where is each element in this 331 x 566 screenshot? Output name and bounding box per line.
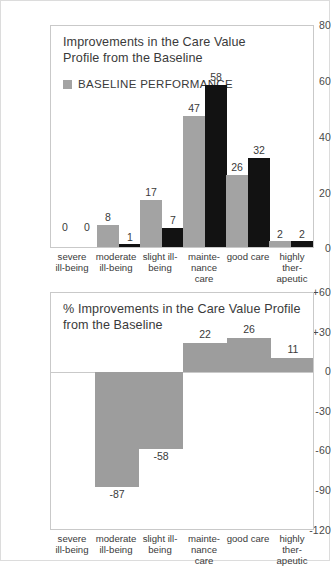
x-label-bottom-highly: highly ther- apeutic: [270, 533, 314, 566]
bar-value-top-g4-gray: 47: [183, 103, 205, 114]
col-bottom-goodcare: [227, 338, 271, 372]
bar-value-top-g4-black: 58: [205, 72, 227, 83]
plot-area-bottom: % Improvements in the Care Value Profile…: [50, 292, 314, 530]
col-value-bottom-moderate: -87: [95, 489, 139, 500]
bar-value-top-g1-black: 0: [76, 222, 98, 233]
x-axis-labels-top: severe ill-being moderate ill-being slig…: [50, 251, 314, 284]
bar-value-top-g3-gray: 17: [140, 187, 162, 198]
x-label-bottom-goodcare: good care: [226, 533, 270, 566]
x-label-top-severe: severe ill-being: [50, 251, 94, 284]
bar-top-g5-gray: [226, 175, 248, 248]
x-label-bottom-mainte: mainte- nance care: [182, 533, 226, 566]
bar-top-g4-gray: [183, 116, 205, 247]
bar-top-g6-black: [291, 241, 313, 247]
x-label-bottom-slight: slight ill- being: [138, 533, 182, 566]
col-bottom-slight: [139, 372, 183, 449]
col-value-bottom-highly: 11: [271, 344, 314, 355]
bar-top-g3-black: [162, 228, 184, 248]
x-label-top-slight: slight ill- being: [138, 251, 182, 284]
x-label-top-goodcare: good care: [226, 251, 270, 284]
bar-top-g5-black: [248, 158, 270, 247]
col-bottom-maintenance: [183, 343, 227, 372]
bar-top-g4-black: [205, 85, 227, 247]
bar-value-top-g1-gray: 0: [54, 222, 76, 233]
x-label-top-moderate: moderate ill-being: [94, 251, 138, 284]
x-label-top-highly: highly ther- apeutic: [270, 251, 314, 284]
bar-value-top-g3-black: 7: [162, 215, 184, 226]
chart-bottom: +60 +30 0 -30 -60 -90 -120 % Improvement…: [1, 282, 331, 562]
plot-area-top: Improvements in the Care Value Profile f…: [50, 25, 314, 248]
bar-value-top-g6-gray: 2: [269, 229, 291, 240]
bar-value-top-g2-gray: 8: [97, 212, 119, 223]
chart-title-top: Improvements in the Care Value Profile f…: [63, 34, 246, 66]
bar-top-g3-gray: [140, 200, 162, 247]
x-axis-labels-bottom: severe ill-being moderate ill-being slig…: [50, 533, 314, 566]
col-value-bottom-slight: -58: [139, 451, 183, 462]
x-label-bottom-moderate: moderate ill-being: [94, 533, 138, 566]
bar-value-top-g5-black: 32: [248, 145, 270, 156]
bar-top-g2-black: [119, 244, 141, 247]
col-bottom-moderate: [95, 372, 139, 487]
bar-value-top-g6-black: 2: [291, 229, 313, 240]
legend-swatch-icon: [63, 80, 72, 89]
x-label-bottom-severe: severe ill-being: [50, 533, 94, 566]
col-value-bottom-maintenance: 22: [183, 329, 227, 340]
chart-top: 80 60 40 20 0 Improvements in the Care V…: [1, 1, 331, 282]
x-label-top-mainte: mainte- nance care: [182, 251, 226, 284]
bar-top-g2-gray: [97, 225, 119, 247]
bar-top-g6-gray: [269, 241, 291, 247]
bar-value-top-g2-black: 1: [119, 232, 141, 243]
col-bottom-highly: [271, 358, 314, 373]
bar-value-top-g5-gray: 26: [226, 162, 248, 173]
col-value-bottom-goodcare: 26: [227, 324, 271, 335]
